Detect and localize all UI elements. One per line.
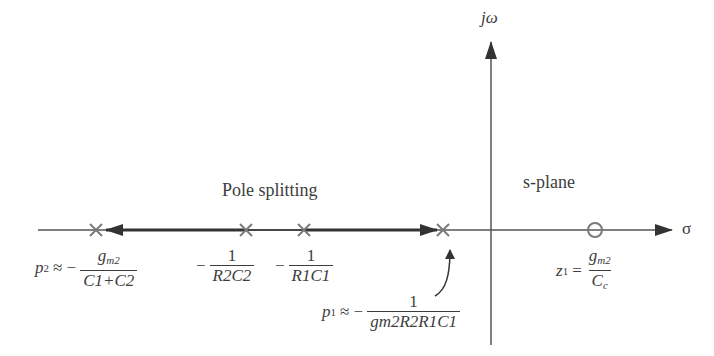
s-plane-label: s-plane [523, 172, 575, 193]
pole-r2c2-label: − 1 R2C2 [196, 246, 254, 285]
pole-p2-label: p2 ≈ − gm2 C1+C2 [35, 246, 137, 290]
pole-p1-label: p1 ≈ − 1 gm2R2R1C1 [322, 292, 460, 331]
zero-z1-label: z1 = gm2 Cc [556, 246, 614, 295]
jw-axis-label: jω [481, 8, 498, 28]
pole-splitting-title: Pole splitting [222, 180, 318, 201]
pole-r1c1-label: − 1 R1C1 [275, 246, 333, 285]
sigma-axis-label: σ [682, 219, 691, 239]
p1-pointer-arrow [435, 250, 450, 296]
